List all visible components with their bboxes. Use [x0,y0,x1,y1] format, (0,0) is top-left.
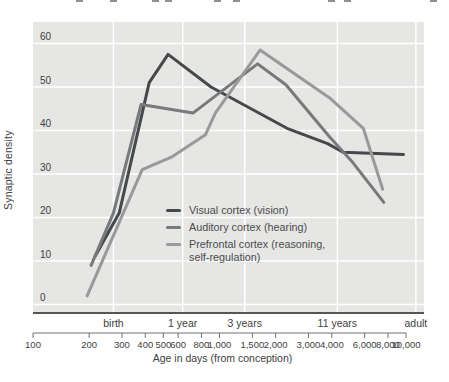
synaptic-density-chart: 0102030405060birth1 year3 years11 yearsa… [0,0,449,382]
x-tick-label: 400 [137,339,153,350]
y-tick-label: 10 [40,249,52,260]
x-tick-label: 10,000 [391,339,420,350]
x-tick-label: 6,000 [353,339,377,350]
auditory-line-swatch [166,226,181,230]
x-tick-label: 3,000 [297,339,321,350]
visual-line-swatch [166,209,181,213]
x-tick-label: 2,000 [264,339,288,350]
y-tick-label: 50 [40,75,52,86]
age-marker-label: birth [103,317,124,329]
age-marker-label: adult [405,317,428,329]
y-tick-label: 30 [40,162,52,173]
y-tick-label: 60 [40,31,52,42]
legend-label-auditory: Auditory cortex (hearing) [189,221,307,234]
x-tick-label: 4,000 [320,339,344,350]
y-axis-title: Synaptic density [2,100,22,240]
x-tick-label: 100 [25,339,41,350]
plot-panel [33,22,424,313]
x-tick-label: 300 [114,339,130,350]
x-tick-label: 200 [81,339,97,350]
x-tick-label: 500 [155,339,171,350]
legend-label-visual: Visual cortex (vision) [189,204,288,217]
age-marker-label: 3 years [227,317,261,329]
legend-item-auditory: Auditory cortex (hearing) [166,221,325,234]
x-tick-label: 1,000 [208,339,232,350]
y-tick-label: 40 [40,118,52,129]
legend-item-prefrontal: Prefrontal cortex (reasoning, self-regul… [166,238,325,263]
legend: Visual cortex (vision) Auditory cortex (… [166,204,325,268]
x-tick-label: 1,500 [240,339,264,350]
synaptic-density-figure: 0102030405060birth1 year3 years11 yearsa… [0,0,449,382]
legend-label-prefrontal: Prefrontal cortex (reasoning, self-regul… [189,238,325,263]
y-tick-label: 0 [40,292,46,303]
x-axis-title: Age in days (from conception) [153,352,292,364]
age-marker-label: 1 year [168,317,198,329]
x-tick-label: 600 [170,339,186,350]
legend-item-visual: Visual cortex (vision) [166,204,325,217]
y-tick-label: 20 [40,205,52,216]
prefrontal-line-swatch [166,243,181,247]
age-marker-label: 11 years [318,317,358,329]
